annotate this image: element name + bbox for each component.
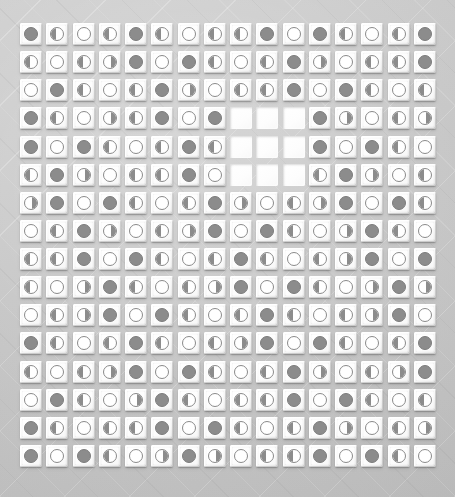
tile-cell[interactable] xyxy=(386,301,412,329)
tile-cell[interactable] xyxy=(333,358,359,386)
tile-cell[interactable] xyxy=(202,161,228,189)
moon-tile[interactable] xyxy=(309,445,331,467)
tile-cell[interactable] xyxy=(386,245,412,273)
moon-tile[interactable] xyxy=(125,192,147,214)
tile-cell[interactable] xyxy=(71,20,97,48)
moon-tile[interactable] xyxy=(20,417,42,439)
tile-cell[interactable] xyxy=(281,217,307,245)
moon-tile[interactable] xyxy=(256,248,278,270)
moon-tile[interactable] xyxy=(230,417,252,439)
tile-cell[interactable] xyxy=(18,104,44,132)
tile-cell[interactable] xyxy=(386,386,412,414)
tile-cell[interactable] xyxy=(149,245,175,273)
tile-cell[interactable] xyxy=(307,76,333,104)
tile-cell[interactable] xyxy=(202,48,228,76)
moon-tile[interactable] xyxy=(73,192,95,214)
moon-tile[interactable] xyxy=(178,276,200,298)
tile-cell[interactable] xyxy=(71,161,97,189)
tile-cell[interactable] xyxy=(281,442,307,470)
tile-cell[interactable] xyxy=(281,76,307,104)
moon-tile[interactable] xyxy=(256,304,278,326)
tile-cell[interactable] xyxy=(149,442,175,470)
moon-tile[interactable] xyxy=(125,248,147,270)
tile-cell[interactable] xyxy=(176,76,202,104)
moon-tile[interactable] xyxy=(151,23,173,45)
moon-tile[interactable] xyxy=(335,192,357,214)
moon-tile[interactable] xyxy=(125,445,147,467)
moon-tile[interactable] xyxy=(256,79,278,101)
tile-cell[interactable] xyxy=(202,189,228,217)
tile-cell[interactable] xyxy=(359,217,385,245)
moon-tile[interactable] xyxy=(388,51,410,73)
tile-cell[interactable] xyxy=(254,414,280,442)
moon-tile[interactable] xyxy=(73,276,95,298)
moon-tile[interactable] xyxy=(388,361,410,383)
moon-tile[interactable] xyxy=(46,192,68,214)
tile-cell[interactable] xyxy=(44,329,70,357)
tile-cell[interactable] xyxy=(412,104,438,132)
tile-cell[interactable] xyxy=(412,76,438,104)
tile-cell[interactable] xyxy=(202,217,228,245)
tile-cell[interactable] xyxy=(176,386,202,414)
tile-cell[interactable] xyxy=(123,133,149,161)
tile-cell[interactable] xyxy=(281,329,307,357)
moon-tile[interactable] xyxy=(178,164,200,186)
moon-tile[interactable] xyxy=(414,361,436,383)
tile-cell[interactable] xyxy=(254,273,280,301)
tile-cell[interactable] xyxy=(176,245,202,273)
moon-tile[interactable] xyxy=(204,107,226,129)
tile-cell[interactable] xyxy=(97,133,123,161)
moon-tile[interactable] xyxy=(46,445,68,467)
moon-tile[interactable] xyxy=(335,23,357,45)
tile-cell[interactable] xyxy=(149,189,175,217)
moon-tile[interactable] xyxy=(204,51,226,73)
tile-cell[interactable] xyxy=(359,245,385,273)
tile-cell[interactable] xyxy=(412,358,438,386)
tile-cell[interactable] xyxy=(18,217,44,245)
tile-cell[interactable] xyxy=(412,20,438,48)
tile-cell[interactable] xyxy=(307,20,333,48)
tile-cell[interactable] xyxy=(71,329,97,357)
moon-tile[interactable] xyxy=(256,51,278,73)
tile-cell[interactable] xyxy=(333,414,359,442)
tile-cell[interactable] xyxy=(44,217,70,245)
tile-cell[interactable] xyxy=(228,358,254,386)
moon-tile[interactable] xyxy=(309,332,331,354)
moon-tile[interactable] xyxy=(309,276,331,298)
moon-tile[interactable] xyxy=(204,192,226,214)
tile-cell[interactable] xyxy=(149,76,175,104)
tile-cell[interactable] xyxy=(149,48,175,76)
tile-cell[interactable] xyxy=(149,20,175,48)
tile-cell[interactable] xyxy=(386,273,412,301)
tile-cell[interactable] xyxy=(71,104,97,132)
tile-cell[interactable] xyxy=(412,245,438,273)
moon-tile[interactable] xyxy=(151,389,173,411)
tile-cell[interactable] xyxy=(123,358,149,386)
tile-cell[interactable] xyxy=(333,329,359,357)
tile-cell[interactable] xyxy=(307,442,333,470)
moon-tile[interactable] xyxy=(230,79,252,101)
moon-tile[interactable] xyxy=(230,304,252,326)
moon-tile[interactable] xyxy=(125,164,147,186)
tile-cell[interactable] xyxy=(176,273,202,301)
tile-cell[interactable] xyxy=(44,76,70,104)
moon-tile[interactable] xyxy=(361,361,383,383)
tile-cell[interactable] xyxy=(333,442,359,470)
tile-cell[interactable] xyxy=(386,414,412,442)
moon-tile[interactable] xyxy=(73,164,95,186)
tile-cell[interactable] xyxy=(386,20,412,48)
moon-tile[interactable] xyxy=(46,164,68,186)
tile-cell[interactable] xyxy=(149,161,175,189)
tile-cell[interactable] xyxy=(307,217,333,245)
tile-cell[interactable] xyxy=(149,273,175,301)
moon-tile[interactable] xyxy=(335,276,357,298)
moon-tile[interactable] xyxy=(388,417,410,439)
tile-cell[interactable] xyxy=(202,414,228,442)
tile-cell[interactable] xyxy=(333,273,359,301)
moon-tile[interactable] xyxy=(20,192,42,214)
moon-tile[interactable] xyxy=(99,276,121,298)
tile-cell[interactable] xyxy=(412,161,438,189)
moon-tile[interactable] xyxy=(361,51,383,73)
moon-tile[interactable] xyxy=(335,220,357,242)
moon-tile[interactable] xyxy=(388,136,410,158)
